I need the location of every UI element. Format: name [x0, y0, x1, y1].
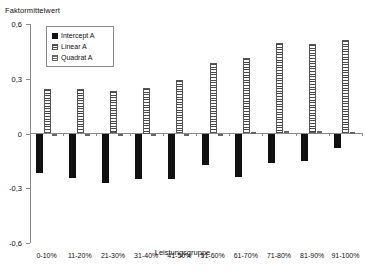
- bar-intercept: [168, 134, 175, 180]
- y-axis-tick: [26, 24, 30, 25]
- legend-label-linear: Linear A: [61, 43, 87, 50]
- legend-label-intercept: Intercept A: [61, 32, 94, 39]
- chart-legend: Intercept A Linear A Quadrat A: [46, 26, 114, 67]
- bar-intercept: [36, 134, 43, 173]
- y-axis-tick: [26, 188, 30, 189]
- bar-quadrat: [52, 134, 57, 136]
- bar-quadrat: [284, 131, 289, 133]
- x-axis-tick: [96, 133, 97, 136]
- bar-linear: [176, 80, 183, 134]
- chart-container: Faktormittelwert 0,60,30-0,3-0,6 0-10%11…: [0, 0, 365, 280]
- x-axis-tick: [63, 133, 64, 136]
- bar-linear: [110, 91, 117, 134]
- bar-intercept: [235, 134, 242, 178]
- bar-quadrat: [118, 134, 123, 136]
- bar-quadrat: [184, 134, 189, 136]
- legend-label-quadrat: Quadrat A: [61, 54, 93, 61]
- bar-intercept: [202, 134, 209, 166]
- bar-quadrat: [151, 134, 156, 136]
- bar-linear: [342, 40, 349, 133]
- legend-swatch-quadrat-icon: [52, 55, 58, 61]
- bar-intercept: [102, 134, 109, 183]
- bar-quadrat: [350, 132, 355, 134]
- legend-item-quadrat: Quadrat A: [52, 52, 109, 63]
- x-axis-tick: [262, 133, 263, 136]
- y-axis-title: Faktormittelwert: [5, 6, 60, 15]
- x-axis-tick: [362, 133, 363, 136]
- x-axis-tick: [196, 133, 197, 136]
- y-axis-tick-label: 0,6: [12, 20, 22, 29]
- bar-intercept: [268, 134, 275, 163]
- legend-item-intercept: Intercept A: [52, 30, 109, 41]
- x-axis-tick: [329, 133, 330, 136]
- x-axis-tick: [163, 133, 164, 136]
- x-axis-title: Leistungsgruppe: [0, 248, 365, 257]
- bar-linear: [77, 89, 84, 134]
- y-axis-tick: [26, 79, 30, 80]
- y-axis-tick: [26, 134, 30, 135]
- bar-linear: [210, 63, 217, 133]
- x-axis-tick: [296, 133, 297, 136]
- bar-linear: [243, 58, 250, 134]
- bar-intercept: [301, 134, 308, 161]
- bar-linear: [309, 44, 316, 133]
- y-axis-tick-label: 0: [18, 129, 22, 138]
- x-axis-tick: [130, 133, 131, 136]
- y-axis-tick-label: -0,3: [9, 184, 22, 193]
- bar-linear: [276, 43, 283, 133]
- bar-linear: [143, 88, 150, 134]
- bar-quadrat: [251, 132, 256, 134]
- x-axis-tick: [229, 133, 230, 136]
- legend-swatch-linear-icon: [52, 44, 58, 50]
- bar-intercept: [334, 134, 341, 149]
- y-axis-tick: [26, 243, 30, 244]
- bar-quadrat: [85, 134, 90, 136]
- bar-intercept: [135, 134, 142, 180]
- bar-intercept: [69, 134, 76, 179]
- legend-item-linear: Linear A: [52, 41, 109, 52]
- bar-quadrat: [317, 131, 322, 133]
- bar-quadrat: [218, 134, 223, 136]
- bar-linear: [44, 89, 51, 134]
- y-axis-tick-label: -0,6: [9, 239, 22, 248]
- legend-swatch-intercept-icon: [52, 33, 58, 39]
- y-axis-tick-label: 0,3: [12, 74, 22, 83]
